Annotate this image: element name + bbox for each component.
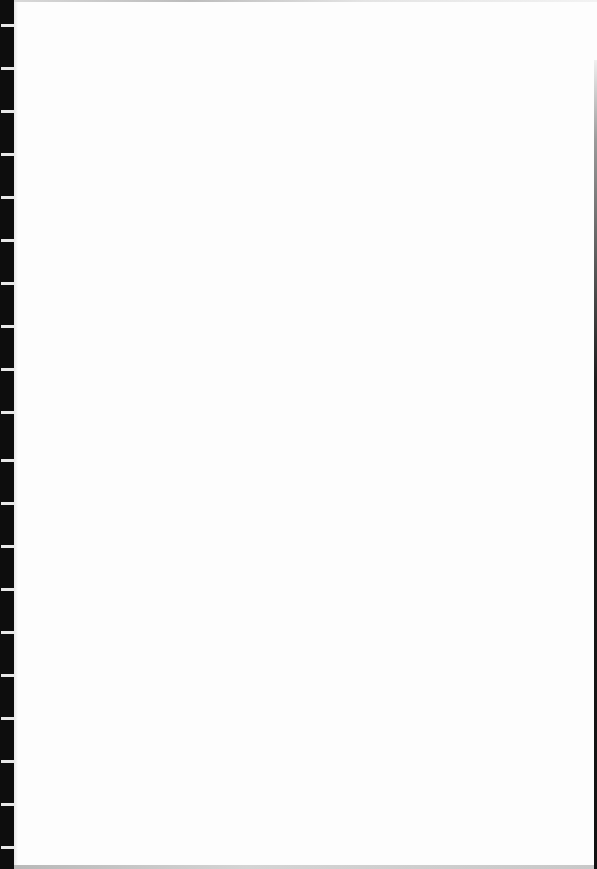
binding-strip	[0, 0, 14, 869]
scanned-page	[0, 0, 597, 869]
binding-tick	[1, 325, 14, 328]
binding-tick	[1, 459, 14, 462]
binding-tick	[1, 196, 14, 199]
binding-tick	[1, 67, 14, 70]
page-content-area	[18, 2, 594, 865]
page-bottom-edge	[14, 865, 594, 869]
binding-tick	[1, 803, 14, 806]
binding-tick	[1, 411, 14, 414]
binding-tick	[1, 24, 14, 27]
binding-tick	[1, 674, 14, 677]
binding-tick	[1, 588, 14, 591]
binding-tick	[1, 239, 14, 242]
binding-tick	[1, 631, 14, 634]
binding-tick	[1, 282, 14, 285]
binding-tick	[1, 760, 14, 763]
binding-tick	[1, 110, 14, 113]
binding-tick	[1, 545, 14, 548]
binding-tick	[1, 846, 14, 849]
binding-tick	[1, 502, 14, 505]
binding-tick	[1, 153, 14, 156]
binding-tick	[1, 368, 14, 371]
binding-tick	[1, 717, 14, 720]
